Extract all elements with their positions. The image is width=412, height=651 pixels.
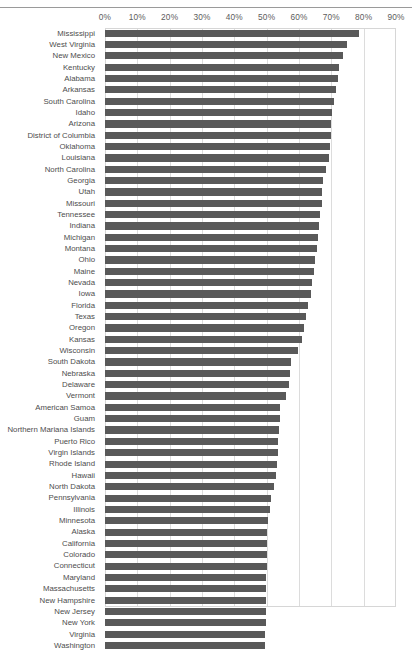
bar[interactable] bbox=[105, 506, 270, 513]
bar[interactable] bbox=[105, 585, 266, 592]
bar[interactable] bbox=[105, 154, 329, 161]
category-label: South Carolina bbox=[0, 96, 99, 107]
chart-row: New Hampshire bbox=[0, 595, 412, 606]
bar[interactable] bbox=[105, 324, 304, 331]
chart-row: West Virginia bbox=[0, 39, 412, 50]
chart-row: Arizona bbox=[0, 118, 412, 129]
bar[interactable] bbox=[105, 245, 317, 252]
chart-row: New York bbox=[0, 617, 412, 628]
x-tick-label-60: 60% bbox=[290, 12, 307, 22]
bar[interactable] bbox=[105, 256, 315, 263]
bar[interactable] bbox=[105, 461, 277, 468]
category-label: Florida bbox=[0, 300, 99, 311]
chart-row: New Jersey bbox=[0, 606, 412, 617]
bar[interactable] bbox=[105, 188, 322, 195]
chart-row: Alaska bbox=[0, 526, 412, 537]
bar[interactable] bbox=[105, 574, 266, 581]
chart-row: Arkansas bbox=[0, 84, 412, 95]
bar[interactable] bbox=[105, 64, 339, 71]
bar[interactable] bbox=[105, 347, 298, 354]
bar[interactable] bbox=[105, 597, 266, 604]
category-label: Oklahoma bbox=[0, 141, 99, 152]
x-tick-label-0: 0% bbox=[99, 12, 111, 22]
chart-row: Georgia bbox=[0, 175, 412, 186]
bar[interactable] bbox=[105, 52, 343, 59]
bar[interactable] bbox=[105, 438, 278, 445]
bar[interactable] bbox=[105, 529, 267, 536]
chart-row: New Mexico bbox=[0, 50, 412, 61]
bar[interactable] bbox=[105, 120, 331, 127]
chart-row: Illinois bbox=[0, 504, 412, 515]
bar[interactable] bbox=[105, 234, 318, 241]
bar[interactable] bbox=[105, 143, 330, 150]
bar[interactable] bbox=[105, 392, 286, 399]
bar[interactable] bbox=[105, 358, 291, 365]
category-label: Rhode Island bbox=[0, 458, 99, 469]
bar[interactable] bbox=[105, 166, 326, 173]
bar[interactable] bbox=[105, 495, 271, 502]
bar[interactable] bbox=[105, 631, 265, 638]
bar[interactable] bbox=[105, 41, 347, 48]
bar[interactable] bbox=[105, 279, 312, 286]
bar[interactable] bbox=[105, 415, 280, 422]
chart-row: Massachusetts bbox=[0, 583, 412, 594]
bar[interactable] bbox=[105, 426, 279, 433]
chart-row: Florida bbox=[0, 300, 412, 311]
bar[interactable] bbox=[105, 75, 338, 82]
category-label: Kansas bbox=[0, 334, 99, 345]
bar[interactable] bbox=[105, 551, 267, 558]
bar[interactable] bbox=[105, 449, 278, 456]
bar[interactable] bbox=[105, 483, 274, 490]
bar[interactable] bbox=[105, 200, 322, 207]
bar[interactable] bbox=[105, 132, 331, 139]
bar[interactable] bbox=[105, 642, 265, 649]
bar[interactable] bbox=[105, 563, 267, 570]
chart-row: Northern Mariana Islands bbox=[0, 424, 412, 435]
category-label: New York bbox=[0, 617, 99, 628]
bar[interactable] bbox=[105, 517, 268, 524]
category-label: Utah bbox=[0, 186, 99, 197]
category-label: Massachusetts bbox=[0, 583, 99, 594]
chart-row: Oklahoma bbox=[0, 141, 412, 152]
chart-row: Washington bbox=[0, 640, 412, 651]
category-label: California bbox=[0, 538, 99, 549]
category-label: Georgia bbox=[0, 175, 99, 186]
bar[interactable] bbox=[105, 177, 323, 184]
chart-row: South Carolina bbox=[0, 96, 412, 107]
category-label: Alaska bbox=[0, 526, 99, 537]
x-tick-label-40: 40% bbox=[226, 12, 243, 22]
category-label: Nebraska bbox=[0, 368, 99, 379]
category-label: Guam bbox=[0, 413, 99, 424]
bar[interactable] bbox=[105, 268, 314, 275]
chart-row: Connecticut bbox=[0, 560, 412, 571]
bar[interactable] bbox=[105, 608, 266, 615]
bar[interactable] bbox=[105, 290, 311, 297]
bar[interactable] bbox=[105, 404, 280, 411]
chart-row: Maine bbox=[0, 266, 412, 277]
bar[interactable] bbox=[105, 86, 336, 93]
category-label: Colorado bbox=[0, 549, 99, 560]
bar[interactable] bbox=[105, 336, 302, 343]
chart-row: Minnesota bbox=[0, 515, 412, 526]
chart-row: Nebraska bbox=[0, 368, 412, 379]
bar[interactable] bbox=[105, 222, 319, 229]
chart-row: Alabama bbox=[0, 73, 412, 84]
bar[interactable] bbox=[105, 98, 334, 105]
chart-row: Oregon bbox=[0, 322, 412, 333]
bar[interactable] bbox=[105, 109, 332, 116]
bar[interactable] bbox=[105, 540, 267, 547]
bar[interactable] bbox=[105, 619, 266, 626]
category-label: Mississippi bbox=[0, 28, 99, 39]
category-label: New Mexico bbox=[0, 50, 99, 61]
bar[interactable] bbox=[105, 472, 276, 479]
bar[interactable] bbox=[105, 381, 289, 388]
bar[interactable] bbox=[105, 30, 359, 37]
bar[interactable] bbox=[105, 370, 290, 377]
chart-row: Vermont bbox=[0, 390, 412, 401]
chart-row: North Dakota bbox=[0, 481, 412, 492]
bar[interactable] bbox=[105, 211, 320, 218]
bar[interactable] bbox=[105, 302, 308, 309]
x-axis-tick-labels: 0%10%20%30%40%50%60%70%80%90% bbox=[0, 12, 412, 26]
bar[interactable] bbox=[105, 313, 306, 320]
chart-row: Colorado bbox=[0, 549, 412, 560]
